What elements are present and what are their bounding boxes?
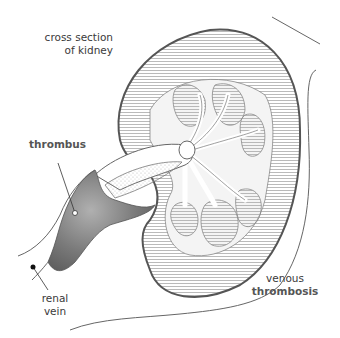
label-renal-line1: renal [35,292,75,305]
capsule-line-top [272,17,320,44]
label-venous-thrombosis: venous thrombosis [250,272,320,298]
label-cross-section-line1: cross section [20,31,113,44]
vein-cross-section [179,141,195,159]
thrombus-marker [73,211,78,216]
renal-vein-marker [31,265,36,270]
label-venous-line2: thrombosis [250,285,320,298]
label-venous-line1: venous [250,272,320,285]
label-renal-line2: vein [35,305,75,318]
label-cross-section-line2: of kidney [20,44,113,57]
label-cross-section: cross section of kidney [20,31,113,57]
label-renal-vein: renal vein [35,292,75,318]
thrombus-leader [58,163,75,213]
label-thrombus: thrombus [29,138,86,151]
